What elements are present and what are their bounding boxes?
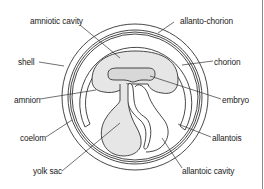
label-coelom: coelom xyxy=(20,133,46,143)
label-allantoic-cavity: allantoic cavity xyxy=(182,166,234,176)
egg-diagram: amniotic cavity allanto-chorion shell ch… xyxy=(0,0,264,189)
label-allanto-chorion: allanto-chorion xyxy=(180,16,233,26)
label-shell: shell xyxy=(18,57,35,67)
leader-coelom xyxy=(46,120,72,137)
label-allantois: allantois xyxy=(212,133,242,143)
leader-amniotic-cavity xyxy=(80,25,120,58)
yolk-sac-shape xyxy=(101,84,141,156)
right-border-line xyxy=(262,0,263,189)
embryo-shape xyxy=(108,68,155,82)
label-yolk-sac: yolk sac xyxy=(33,166,62,176)
label-amnion: amnion xyxy=(14,95,41,105)
leader-allantois xyxy=(178,124,211,137)
leader-shell xyxy=(39,62,64,66)
label-embryo: embryo xyxy=(222,95,249,105)
label-amniotic-cavity: amniotic cavity xyxy=(30,16,83,26)
label-chorion: chorion xyxy=(214,57,241,67)
